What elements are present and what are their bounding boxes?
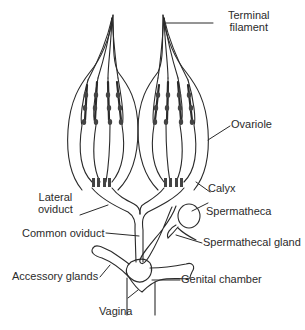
spermatheca-structure <box>140 204 200 264</box>
label-genital-chamber: Genital chamber <box>181 273 262 285</box>
label-lateral-oviduct: Lateral oviduct <box>38 191 73 215</box>
oviducts <box>92 188 184 262</box>
label-terminal-filament-line2: filament <box>228 21 270 33</box>
label-calyx: Calyx <box>208 182 236 194</box>
label-spermatheca: Spermatheca <box>206 205 271 217</box>
left-ovary <box>68 15 138 190</box>
right-ovary <box>138 15 208 190</box>
label-accessory-glands: Accessory glands <box>12 270 98 282</box>
label-terminal-filament-line1: Terminal <box>228 9 270 21</box>
label-ovariole: Ovariole <box>231 118 272 130</box>
label-terminal-filament: Terminal filament <box>228 9 270 33</box>
label-lateral-oviduct-line2: oviduct <box>38 203 73 215</box>
label-lateral-oviduct-line1: Lateral <box>38 191 73 203</box>
label-common-oviduct: Common oviduct <box>22 227 105 239</box>
label-vagina: Vagina <box>99 305 132 317</box>
label-spermathecal-gland: Spermathecal gland <box>203 236 301 248</box>
